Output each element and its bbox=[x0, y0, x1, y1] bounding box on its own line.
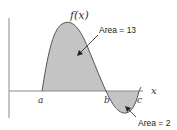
upper-area-annotation: Area = 13 bbox=[99, 25, 136, 35]
x-axis-label: x bbox=[151, 85, 157, 96]
lower-area-annotation: Area = 2 bbox=[138, 118, 171, 128]
negative-area-region bbox=[106, 91, 139, 113]
point-c-label: c bbox=[137, 95, 142, 105]
function-label: f(x) bbox=[69, 9, 89, 22]
lower-area-arrow-line bbox=[128, 109, 136, 117]
positive-area-region bbox=[42, 22, 106, 91]
point-a-label: a bbox=[38, 95, 43, 105]
point-b-label: b bbox=[104, 95, 110, 105]
area-under-curve-diagram: f(x) x a b c Area = 13 Area = 2 bbox=[0, 0, 177, 130]
